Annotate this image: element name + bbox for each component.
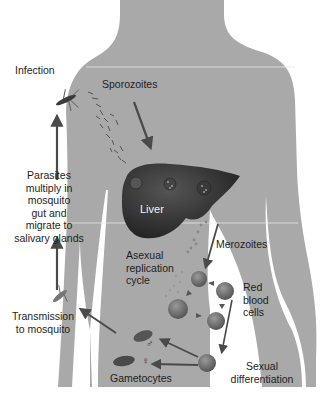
malaria-lifecycle-diagram: Infection Sporozoites Parasites multiply… bbox=[0, 0, 336, 402]
label-asexual-cycle: Asexual replication cycle bbox=[126, 249, 174, 287]
red-blood-cell-icon bbox=[198, 354, 216, 372]
label-line: Sexual bbox=[226, 360, 298, 373]
red-blood-cell-icon bbox=[207, 312, 225, 330]
red-blood-cell-icon bbox=[168, 299, 188, 319]
red-blood-cell-icon bbox=[216, 282, 234, 300]
label-line: Red bbox=[243, 281, 269, 294]
label-line: Parasites bbox=[14, 169, 84, 182]
label-red-blood-cells: Red blood cells bbox=[243, 281, 269, 319]
label-transmission: Transmission to mosquito bbox=[10, 310, 76, 335]
label-liver: Liver bbox=[140, 203, 164, 216]
male-symbol: ♂ bbox=[146, 338, 154, 351]
liver-cell bbox=[197, 181, 211, 195]
label-line: Transmission bbox=[10, 310, 76, 323]
label-line: cells bbox=[243, 306, 269, 319]
arrow-to-female-gametocyte bbox=[154, 364, 198, 365]
label-line: migrate to bbox=[14, 219, 84, 232]
label-line: mosquito bbox=[14, 194, 84, 207]
label-line: Asexual bbox=[126, 249, 174, 262]
liver-cell bbox=[130, 177, 142, 189]
female-symbol: ♀ bbox=[142, 355, 150, 368]
label-line: differentiation bbox=[226, 373, 298, 386]
label-line: blood bbox=[243, 294, 269, 307]
label-sporozoites: Sporozoites bbox=[102, 78, 157, 91]
label-infection: Infection bbox=[15, 64, 55, 77]
label-gametocytes: Gametocytes bbox=[110, 372, 172, 385]
label-line: replication bbox=[126, 262, 174, 275]
label-line: multiply in bbox=[14, 182, 84, 195]
label-sexual-differentiation: Sexual differentiation bbox=[226, 360, 298, 385]
label-line: salivary glands bbox=[14, 232, 84, 245]
red-blood-cell-icon bbox=[191, 271, 207, 287]
label-merozoites: Merozoites bbox=[216, 238, 267, 251]
label-line: gut and bbox=[14, 207, 84, 220]
label-line: to mosquito bbox=[10, 323, 76, 336]
label-line: cycle bbox=[126, 274, 174, 287]
label-parasites-multiply: Parasites multiply in mosquito gut and m… bbox=[14, 169, 84, 244]
